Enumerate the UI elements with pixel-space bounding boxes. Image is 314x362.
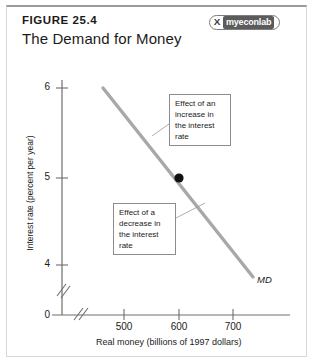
callout-increase-interest-rate: Effect of an increase in the interest ra… [169,94,231,146]
y-tick-label-5: 5 [30,171,50,182]
callout-increase-leader-line [152,124,169,136]
chart-plot-area: Interest rate (percent per year) Real mo… [0,0,314,362]
equilibrium-point [174,173,183,182]
y-tick-label-6: 6 [30,81,50,92]
x-axis-break-mark-2 [79,308,88,320]
figure-container: FIGURE 25.4 The Demand for Money X myeco… [0,0,314,362]
x-tick-label-500: 500 [104,321,144,332]
callout-decrease-interest-rate: Effect of a decrease in the interest rat… [113,203,176,255]
x-axis-break-mark-1 [74,308,83,320]
x-axis-title: Real money (billions of 1997 dollars) [96,337,242,347]
y-tick-label-4: 4 [30,258,50,269]
y-origin-label: 0 [30,309,50,320]
y-axis-title: Interest rate (percent per year) [25,103,35,283]
x-tick-label-700: 700 [213,321,253,332]
money-demand-curve-label: MD [257,274,272,285]
x-tick-label-600: 600 [159,321,199,332]
